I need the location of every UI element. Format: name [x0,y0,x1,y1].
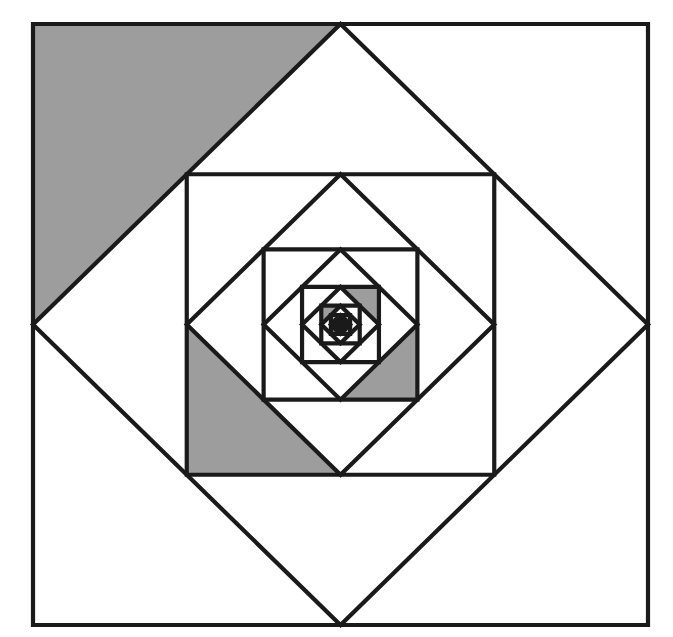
figure-canvas: Nested squares and inscribed diamonds wi… [0,0,673,637]
nested-squares-figure: Nested squares and inscribed diamonds wi… [0,0,673,637]
diamond-outline-level-8 [338,322,343,327]
